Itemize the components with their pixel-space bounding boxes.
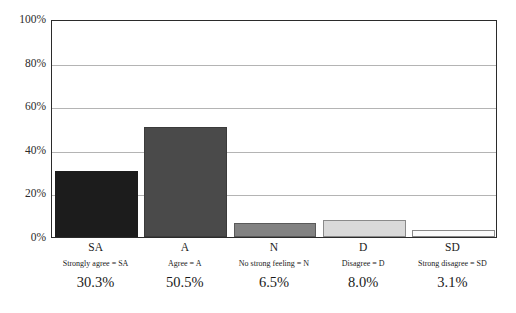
bar-chart: 0%20%40%60%80%100% SAStrongly agree = SA… xyxy=(0,0,516,313)
category-legend-definition: Agree = A xyxy=(140,257,229,270)
category-value-label: 8.0% xyxy=(319,273,408,291)
bar-n xyxy=(234,223,317,237)
plot-area xyxy=(51,20,497,238)
gridline xyxy=(52,108,496,109)
bar-d xyxy=(323,220,406,237)
gridline xyxy=(52,65,496,66)
category-column-sd: SDStrong disagree = SD3.1% xyxy=(408,240,497,291)
category-value-label: 30.3% xyxy=(51,273,140,291)
y-axis-tick-label: 40% xyxy=(0,144,46,156)
bar-a xyxy=(144,127,227,237)
category-column-a: AAgree = A50.5% xyxy=(140,240,229,291)
category-value-label: 50.5% xyxy=(140,273,229,291)
bar-sd xyxy=(412,230,495,237)
y-axis-tick-label: 100% xyxy=(0,13,46,25)
category-label-block: SAStrongly agree = SA30.3%AAgree = A50.5… xyxy=(51,240,497,310)
y-axis-tick-label: 0% xyxy=(0,231,46,243)
category-legend-definition: No strong feeling = N xyxy=(229,257,318,270)
category-abbreviation: D xyxy=(319,240,408,254)
y-axis-tick-label: 20% xyxy=(0,187,46,199)
y-axis-tick-label: 60% xyxy=(0,100,46,112)
category-abbreviation: SD xyxy=(408,240,497,254)
category-legend-definition: Strong disagree = SD xyxy=(408,257,497,270)
category-value-label: 6.5% xyxy=(229,273,318,291)
gridline xyxy=(52,152,496,153)
y-axis-tick-label: 80% xyxy=(0,57,46,69)
bar-sa xyxy=(55,171,138,237)
category-value-label: 3.1% xyxy=(408,273,497,291)
category-abbreviation: N xyxy=(229,240,318,254)
category-column-sa: SAStrongly agree = SA30.3% xyxy=(51,240,140,291)
category-column-n: NNo strong feeling = N6.5% xyxy=(229,240,318,291)
category-column-d: DDisagree = D8.0% xyxy=(319,240,408,291)
category-abbreviation: SA xyxy=(51,240,140,254)
category-legend-definition: Strongly agree = SA xyxy=(51,257,140,270)
category-legend-definition: Disagree = D xyxy=(319,257,408,270)
category-abbreviation: A xyxy=(140,240,229,254)
